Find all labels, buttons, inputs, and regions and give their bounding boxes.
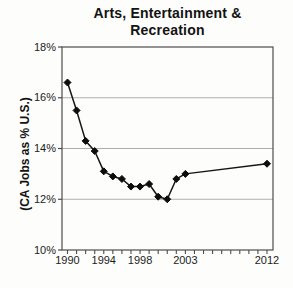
y-axis-tick-label: 16% bbox=[24, 91, 56, 103]
x-axis-tick-label: 1994 bbox=[86, 254, 122, 266]
data-point-marker bbox=[182, 170, 189, 177]
x-axis-tick-label: 2012 bbox=[249, 254, 285, 266]
x-axis-tick-label: 2003 bbox=[167, 254, 203, 266]
data-point-marker bbox=[64, 79, 71, 86]
chart-canvas: Arts, Entertainment & Recreation (CA Job… bbox=[0, 0, 293, 288]
data-line bbox=[68, 83, 268, 200]
data-point-marker bbox=[164, 196, 171, 203]
y-axis-tick-label: 18% bbox=[24, 41, 56, 53]
y-axis-tick-label: 12% bbox=[24, 193, 56, 205]
x-axis-tick-label: 1998 bbox=[122, 254, 158, 266]
data-point-marker bbox=[137, 183, 144, 190]
data-point-marker bbox=[173, 175, 180, 182]
data-point-marker bbox=[73, 107, 80, 114]
data-point-marker bbox=[109, 173, 116, 180]
y-axis-tick-label: 14% bbox=[24, 142, 56, 154]
data-point-marker bbox=[264, 160, 271, 167]
x-axis-tick-label: 1990 bbox=[50, 254, 86, 266]
data-point-marker bbox=[100, 168, 107, 175]
